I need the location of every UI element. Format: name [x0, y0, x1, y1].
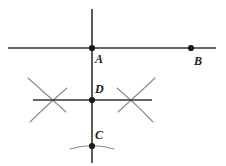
right-arc-upper-path — [118, 78, 155, 112]
left-arc-upper-path — [28, 78, 66, 112]
marked-points — [89, 45, 194, 149]
geometry-figure: A B D C — [0, 0, 226, 166]
point-b-dot — [188, 45, 194, 51]
left-arc-lower-path — [30, 88, 67, 122]
point-c-dot — [89, 143, 95, 149]
right-arc-lower-path — [117, 88, 153, 122]
point-label-c: C — [95, 129, 103, 141]
point-label-b: B — [194, 55, 202, 67]
figure-canvas — [0, 0, 226, 166]
point-label-d: D — [95, 83, 104, 95]
point-label-a: A — [95, 53, 103, 65]
construction-lines — [8, 9, 216, 163]
point-a-dot — [89, 45, 95, 51]
point-d-dot — [89, 97, 95, 103]
